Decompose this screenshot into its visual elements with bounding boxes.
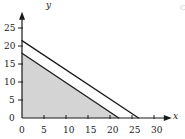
plot-area (0, 0, 185, 139)
y-tick-label: 10 (4, 78, 15, 87)
x-tick-label: 25 (129, 126, 140, 135)
y-tick-label: 25 (4, 24, 15, 33)
x-tick-label: 10 (63, 126, 74, 135)
y-tick-label: 20 (4, 42, 15, 51)
x-tick-label: 5 (41, 126, 47, 135)
x-tick-label: 0 (19, 126, 25, 135)
y-tick-label: 5 (9, 96, 15, 105)
x-tick-label: 20 (107, 126, 118, 135)
y-tick-label: 0 (9, 114, 15, 123)
y-axis-label: y (46, 1, 51, 10)
y-axis-arrow-icon (19, 12, 25, 20)
x-axis-arrow-icon (164, 115, 172, 121)
chart-figure: 051015202530 0510152025 x y C (0, 0, 185, 139)
x-tick-label: 30 (151, 126, 162, 135)
y-tick-label: 15 (4, 60, 15, 69)
x-tick-label: 15 (85, 126, 96, 135)
corner-annotation: C (180, 4, 185, 12)
x-axis-label: x (173, 112, 178, 121)
